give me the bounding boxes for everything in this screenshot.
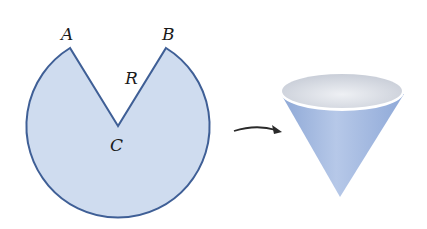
circular-sector: A B R C — [26, 24, 209, 218]
sector-shape — [26, 48, 209, 218]
transform-arrow — [234, 125, 282, 134]
label-b: B — [161, 24, 175, 44]
cone-opening — [282, 74, 402, 108]
label-r: R — [124, 68, 138, 88]
label-a: A — [59, 24, 73, 44]
figure-canvas: A B R C — [0, 0, 427, 229]
arrow-head-icon — [272, 125, 282, 134]
cone — [280, 73, 404, 197]
label-c: C — [110, 135, 123, 155]
arrow-shaft — [234, 127, 276, 131]
